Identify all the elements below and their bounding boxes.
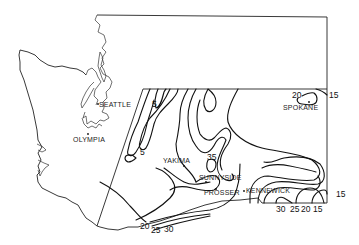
contour-line	[136, 168, 175, 220]
contour-line	[188, 89, 234, 181]
city-label-seattle: SEATTLE	[99, 101, 131, 108]
contour-label: 35	[207, 152, 217, 162]
state-north-border	[97, 15, 327, 89]
city-label-yakima: YAKIMA	[163, 157, 190, 164]
contour-line	[100, 182, 146, 222]
contour-line	[152, 214, 210, 226]
city-marker-spokane	[308, 101, 310, 103]
contour-line	[204, 89, 216, 112]
city-label-olympia: OLYMPIA	[73, 136, 105, 143]
contour-label: 30	[164, 224, 174, 234]
puget-sound-inner	[86, 68, 101, 105]
city-marker-yakima	[183, 165, 185, 167]
contour-label: 5	[152, 99, 157, 109]
whidbey-island	[98, 52, 106, 82]
city-label-kennewick: KENNEWICK	[246, 187, 290, 194]
city-label-sunnyside: SUNNYSIDE	[199, 174, 242, 181]
contour-label: 30	[276, 204, 286, 214]
contour-label: 20	[301, 204, 311, 214]
contour-label: 5	[140, 147, 145, 157]
city-marker-olympia	[87, 133, 89, 135]
city-marker-kennewick	[243, 190, 245, 192]
city-marker-sunnyside	[205, 181, 207, 183]
contour-label: 25	[151, 225, 161, 235]
contour-label: 20	[292, 90, 302, 100]
contour-label: 15	[313, 204, 323, 214]
contour-label: 15	[336, 189, 346, 199]
contour-label: 20	[140, 221, 150, 231]
washington-contour-map: SEATTLE OLYMPIA YAKIMA SPOKANE SUNNYSIDE…	[0, 0, 359, 245]
contour-label: 25	[290, 204, 300, 214]
south-sound	[82, 118, 102, 128]
city-label-spokane: SPOKANE	[283, 104, 318, 111]
city-label-prosser: PROSSER	[204, 189, 240, 196]
hood-canal	[81, 82, 94, 108]
contour-line	[316, 89, 327, 95]
contour-label: 15	[329, 90, 339, 100]
contour-line	[176, 89, 196, 182]
contour-line	[139, 89, 178, 150]
contour-line	[262, 165, 316, 172]
contour-line	[276, 197, 292, 203]
